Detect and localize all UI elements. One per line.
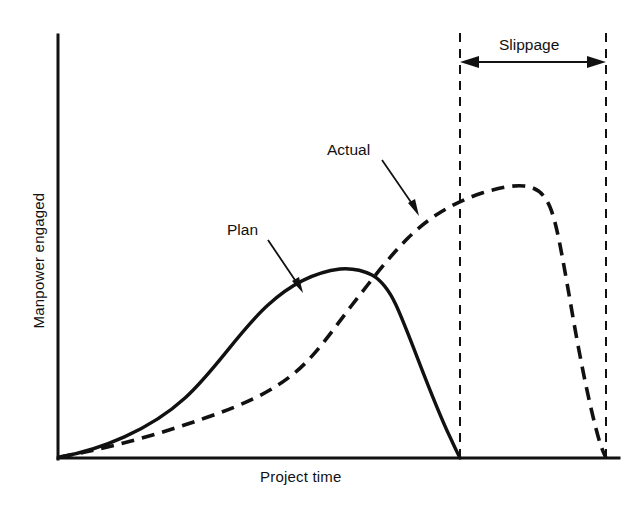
- actual-curve: [60, 186, 606, 458]
- plan-series-label: Plan: [227, 221, 258, 239]
- axes-group: [58, 35, 619, 459]
- x-axis-label: Project time: [260, 468, 342, 485]
- chart-canvas: [0, 0, 640, 511]
- actual-series-label: Actual: [327, 141, 370, 159]
- plan-leader-line: [268, 240, 299, 286]
- actual-leader-group: [382, 160, 419, 216]
- slippage-arrow-head-left: [460, 56, 479, 68]
- completion-markers-group: [460, 33, 606, 458]
- slippage-arrow-head-right: [587, 56, 606, 68]
- manpower-vs-project-time-chart: Manpower engaged Project time Plan Actua…: [0, 0, 640, 511]
- y-axis-label: Manpower engaged: [30, 161, 47, 361]
- plan-curve: [60, 269, 460, 458]
- plan-leader-group: [268, 240, 303, 293]
- actual-leader-line: [382, 160, 415, 208]
- slippage-label: Slippage: [499, 36, 559, 54]
- slippage-arrow-group: [460, 56, 606, 68]
